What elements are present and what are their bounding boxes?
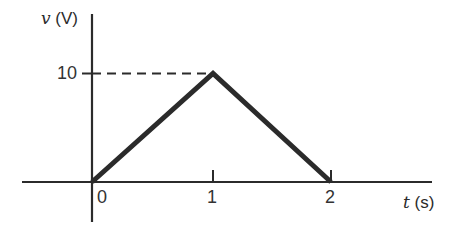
y-axis-unit: (V)	[51, 9, 78, 28]
x-tick-label-0: 0	[97, 188, 107, 206]
figure-container: v (V) t (s) 10 0 1 2	[0, 0, 454, 234]
y-axis-label: v (V)	[41, 10, 78, 27]
x-axis-label: t (s)	[403, 194, 434, 211]
x-axis-unit: (s)	[410, 193, 435, 212]
x-tick-label-2: 2	[325, 188, 335, 206]
y-tick-label-10: 10	[57, 64, 77, 82]
waveform-line	[92, 74, 331, 183]
y-axis-symbol: v	[41, 8, 51, 28]
x-tick-label-1: 1	[207, 188, 217, 206]
x-axis-symbol: t	[403, 192, 410, 212]
chart-canvas	[0, 0, 454, 234]
